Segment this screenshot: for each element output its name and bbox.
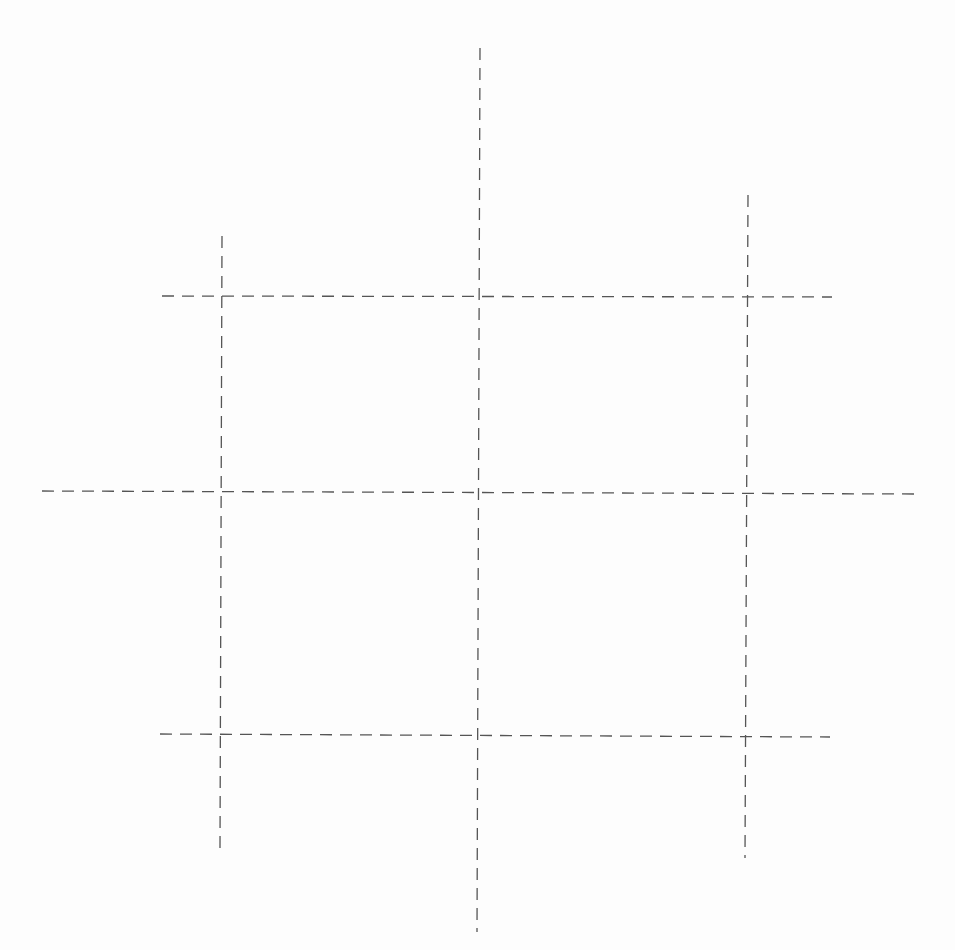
dashed-line-horizontal-top bbox=[162, 296, 832, 297]
dashed-line-horizontal-bottom bbox=[160, 734, 830, 737]
grid-lines bbox=[42, 48, 918, 932]
dashed-line-vertical-left bbox=[220, 236, 222, 848]
dashed-line-horizontal-middle bbox=[42, 491, 918, 494]
dashed-grid-diagram bbox=[0, 0, 955, 950]
dashed-line-vertical-center bbox=[477, 48, 480, 932]
dashed-line-vertical-right bbox=[745, 195, 748, 858]
